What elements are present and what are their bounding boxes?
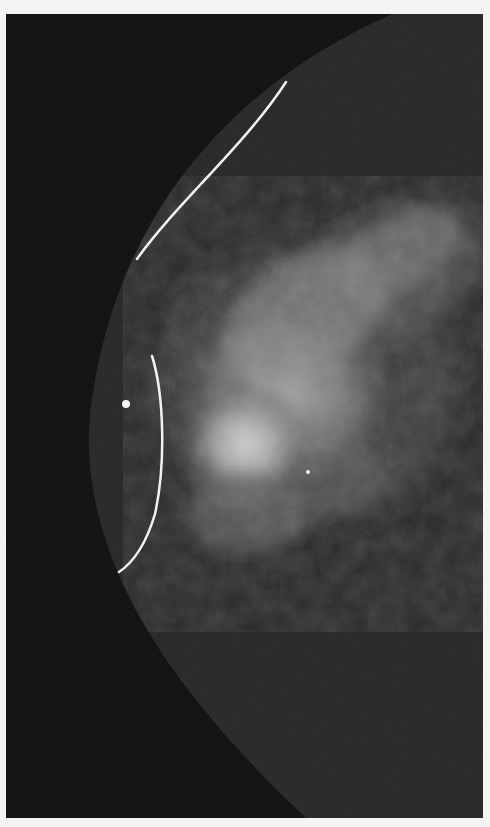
dot-marker [122, 400, 130, 408]
mammogram-image [6, 14, 483, 818]
calcification-dot [306, 470, 310, 474]
mammogram-svg [6, 14, 483, 818]
